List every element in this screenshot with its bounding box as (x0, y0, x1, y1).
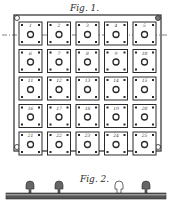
rivet-icon (21, 151, 23, 153)
open-bolt-icon (115, 181, 123, 193)
rivet-icon (95, 79, 97, 81)
rivet-icon (21, 107, 23, 109)
rivet-icon (78, 107, 80, 109)
rivet-icon (21, 52, 23, 54)
plate-number: 4 (114, 23, 118, 28)
rivet-icon (152, 107, 154, 109)
rivet-icon (50, 134, 52, 136)
rivet-icon (95, 69, 97, 71)
rivet-icon (124, 79, 126, 81)
rivet-icon (152, 69, 154, 71)
figure-2-label: Fig. 2. (79, 174, 109, 184)
rivet-icon (78, 24, 80, 26)
rivet-icon (95, 24, 97, 26)
rivet-icon (124, 134, 126, 136)
rivet-icon (124, 107, 126, 109)
rivet-icon (78, 69, 80, 71)
plate-number: 6 (29, 51, 32, 56)
plate: 22 (48, 132, 71, 155)
plate: 20 (133, 105, 156, 128)
rivet-icon (21, 69, 23, 71)
plate: 3 (76, 22, 99, 45)
rivet-icon (38, 134, 40, 136)
plate-number: 21 (27, 133, 34, 138)
plate: 23 (76, 132, 99, 155)
rivet-icon (38, 96, 40, 98)
plate: 11 (19, 77, 42, 100)
rivet-icon (50, 96, 52, 98)
rivet-icon (107, 151, 109, 153)
rivet-icon (21, 96, 23, 98)
rivet-icon (95, 107, 97, 109)
rivet-icon (21, 124, 23, 126)
plate: 7 (48, 50, 71, 73)
rivet-icon (135, 151, 137, 153)
rivet-icon (67, 69, 69, 71)
plate: 17 (48, 105, 71, 128)
rivet-icon (95, 52, 97, 54)
plate-number: 9 (115, 51, 118, 56)
rivet-icon (21, 24, 23, 26)
plate-number: 22 (55, 133, 62, 138)
rivet-icon (135, 24, 137, 26)
rivet-icon (124, 69, 126, 71)
figure-1-label: Fig. 1. (69, 3, 99, 13)
bolt-head-icon (55, 181, 63, 193)
plate-number: 2 (57, 23, 61, 28)
rivet-icon (107, 79, 109, 81)
rivet-icon (78, 96, 80, 98)
rivet-icon (124, 52, 126, 54)
rivet-icon (38, 79, 40, 81)
plate: 24 (105, 132, 128, 155)
plate-grid: 1234567891011121314151617181920212223242… (19, 22, 156, 155)
rivet-icon (50, 41, 52, 43)
rivet-icon (152, 52, 154, 54)
plate-number: 3 (86, 23, 89, 28)
plate: 4 (105, 22, 128, 45)
rivet-icon (78, 79, 80, 81)
plate: 18 (76, 105, 99, 128)
rivet-icon (50, 24, 52, 26)
plate: 2 (48, 22, 71, 45)
plate-number: 20 (141, 106, 148, 111)
plate: 8 (76, 50, 99, 73)
rivet-icon (152, 96, 154, 98)
plate-number: 19 (113, 106, 119, 111)
rivet-icon (107, 69, 109, 71)
rivet-icon (78, 124, 80, 126)
rivet-icon (50, 107, 52, 109)
plate: 9 (105, 50, 128, 73)
plate-number: 12 (56, 78, 62, 83)
rivet-icon (67, 79, 69, 81)
plate-number: 15 (142, 78, 148, 83)
rivet-icon (152, 134, 154, 136)
rivet-icon (135, 107, 137, 109)
rivet-icon (107, 124, 109, 126)
rivet-icon (78, 151, 80, 153)
plate: 14 (105, 77, 128, 100)
rivet-icon (38, 151, 40, 153)
plate: 21 (19, 132, 42, 155)
rivet-icon (135, 79, 137, 81)
plate-number: 8 (86, 51, 89, 56)
plate-number: 18 (85, 106, 91, 111)
plate-number: 1 (29, 23, 32, 28)
plate-number: 7 (58, 51, 61, 56)
rivet-icon (107, 107, 109, 109)
plate: 10 (133, 50, 156, 73)
plate-number: 24 (112, 133, 119, 138)
plate-number: 25 (141, 133, 148, 138)
plate-number: 14 (113, 78, 119, 83)
rivet-icon (135, 52, 137, 54)
rivet-icon (38, 124, 40, 126)
rivet-icon (67, 134, 69, 136)
rivet-icon (50, 52, 52, 54)
rivet-icon (95, 124, 97, 126)
rivet-icon (21, 79, 23, 81)
rivet-icon (38, 52, 40, 54)
rivet-icon (135, 41, 137, 43)
rivet-icon (124, 96, 126, 98)
plate-number: 16 (28, 106, 34, 111)
bolt-head-icon (26, 181, 34, 193)
rivet-icon (38, 24, 40, 26)
